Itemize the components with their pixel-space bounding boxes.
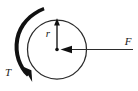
disk-center-dot xyxy=(55,48,59,52)
force-label: F xyxy=(124,35,132,47)
torque-label: T xyxy=(5,66,12,78)
torque-arrowhead-icon xyxy=(23,67,32,82)
diagram-canvas: r F T xyxy=(0,0,138,91)
force-vector-group xyxy=(61,46,134,54)
force-arrowhead-icon xyxy=(61,46,73,54)
physics-diagram-figure: r F T xyxy=(0,0,138,91)
torque-arc-path xyxy=(15,7,45,77)
radius-vector-group xyxy=(54,18,60,49)
torque-arrow-group xyxy=(15,7,45,82)
radius-label: r xyxy=(46,27,51,39)
radius-arrowhead-icon xyxy=(54,18,60,25)
